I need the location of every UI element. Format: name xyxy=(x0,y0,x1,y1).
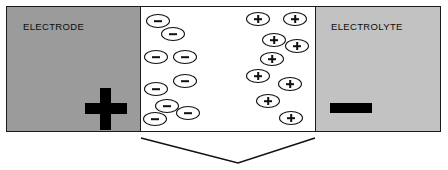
negative-ion-2 xyxy=(161,27,185,41)
plus-glyph xyxy=(289,80,291,88)
electrolyte-label: ELECTROLYTE xyxy=(331,21,403,32)
plus-vertical-bar xyxy=(100,88,111,130)
minus-glyph xyxy=(151,118,159,120)
negative-ion-5 xyxy=(173,74,197,88)
minus-glyph xyxy=(163,105,171,107)
minus-glyph xyxy=(181,80,189,82)
brace-polyline xyxy=(141,138,315,163)
minus-glyph xyxy=(181,56,189,58)
positive-ion-7 xyxy=(278,77,302,91)
positive-ion-4 xyxy=(285,39,309,53)
electrode-plus-sign xyxy=(85,88,127,130)
positive-ion-3 xyxy=(262,33,286,47)
positive-ion-5 xyxy=(260,52,284,66)
plus-glyph xyxy=(257,15,259,23)
electrode-label: ELECTRODE xyxy=(23,21,84,32)
plus-glyph xyxy=(271,55,273,63)
minus-glyph xyxy=(169,33,177,35)
positive-ion-6 xyxy=(246,69,270,83)
plus-glyph xyxy=(294,15,296,23)
negative-ion-4 xyxy=(173,50,197,64)
plus-glyph xyxy=(290,114,292,122)
negative-ion-6 xyxy=(144,82,168,96)
minus-glyph xyxy=(184,112,192,114)
plus-glyph xyxy=(257,72,259,80)
plus-glyph xyxy=(296,42,298,50)
minus-glyph xyxy=(152,56,160,58)
positive-ion-9 xyxy=(279,111,303,125)
positive-ion-8 xyxy=(256,94,280,108)
positive-ion-1 xyxy=(246,12,270,26)
minus-horizontal-bar xyxy=(330,103,372,113)
electrolyte-minus-sign xyxy=(330,88,372,130)
minus-glyph xyxy=(152,88,160,90)
minus-glyph xyxy=(154,20,162,22)
negative-ion-8 xyxy=(176,106,200,120)
negative-ion-1 xyxy=(146,14,170,28)
double-layer-figure: ELECTRODE ELECTROLYTE xyxy=(0,0,448,170)
negative-ion-3 xyxy=(144,50,168,64)
positive-ion-2 xyxy=(283,12,307,26)
plus-glyph xyxy=(267,97,269,105)
negative-ion-9 xyxy=(143,112,167,126)
plus-glyph xyxy=(273,36,275,44)
